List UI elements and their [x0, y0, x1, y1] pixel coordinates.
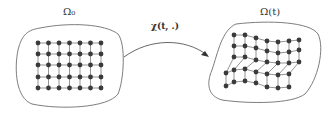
- grid-node: [57, 86, 62, 91]
- grid-node: [99, 75, 104, 80]
- grid-node: [88, 86, 93, 91]
- grid-node: [57, 52, 62, 57]
- grid-node: [46, 63, 51, 68]
- grid-node: [99, 63, 104, 68]
- grid-node: [67, 75, 72, 80]
- mapping-label: χ(t, .): [151, 21, 179, 31]
- grid-node: [276, 73, 281, 78]
- right-grid: [224, 33, 302, 91]
- grid-node: [78, 52, 83, 57]
- grid-node: [254, 70, 259, 75]
- grid-node: [287, 61, 292, 66]
- grid-node: [99, 86, 104, 91]
- right-domain-label: Ω(t): [260, 6, 280, 17]
- grid-node: [224, 84, 229, 89]
- grid-node: [67, 63, 72, 68]
- grid-node: [67, 52, 72, 57]
- grid-node: [67, 41, 72, 46]
- grid-node: [287, 72, 292, 77]
- mapping-arrow: [124, 42, 207, 57]
- grid-node: [243, 33, 248, 38]
- grid-node: [265, 72, 270, 77]
- grid-node: [297, 60, 302, 65]
- left-domain-label: Ω₀: [63, 6, 75, 17]
- grid-node: [36, 86, 41, 91]
- grid-node: [78, 86, 83, 91]
- grid-node: [46, 41, 51, 46]
- grid-node: [46, 52, 51, 57]
- grid-node: [243, 44, 248, 49]
- grid-node: [243, 79, 248, 84]
- grid-node: [88, 52, 93, 57]
- grid-node: [287, 85, 292, 90]
- grid-node: [265, 60, 270, 65]
- grid-node: [276, 51, 281, 56]
- grid-node: [99, 41, 104, 46]
- grid-node: [287, 50, 292, 55]
- grid-node: [265, 49, 270, 54]
- grid-node: [57, 63, 62, 68]
- grid-node: [243, 55, 248, 60]
- grid-node: [243, 67, 248, 72]
- grid-node: [78, 75, 83, 80]
- grid-node: [297, 48, 302, 53]
- grid-node: [276, 86, 281, 91]
- grid-node: [67, 86, 72, 91]
- grid-node: [57, 75, 62, 80]
- grid-node: [276, 61, 281, 66]
- grid-node: [57, 41, 62, 46]
- grid-node: [88, 41, 93, 46]
- grid-node: [265, 39, 270, 44]
- grid-node: [99, 52, 104, 57]
- grid-node: [232, 68, 237, 73]
- grid-node: [36, 75, 41, 80]
- grid-node: [287, 39, 292, 44]
- grid-node: [276, 40, 281, 45]
- left-grid: [36, 41, 104, 91]
- grid-node: [232, 44, 237, 49]
- grid-node: [232, 80, 237, 85]
- grid-node: [254, 46, 259, 51]
- grid-node: [254, 58, 259, 63]
- grid-node: [88, 75, 93, 80]
- grid-node: [232, 33, 237, 38]
- grid-node: [224, 71, 229, 76]
- grid-node: [254, 81, 259, 86]
- grid-node: [36, 52, 41, 57]
- grid-node: [297, 38, 302, 43]
- grid-node: [46, 86, 51, 91]
- diagram-canvas: [0, 0, 335, 114]
- grid-node: [36, 63, 41, 68]
- grid-node: [254, 36, 259, 41]
- grid-node: [36, 41, 41, 46]
- grid-node: [78, 63, 83, 68]
- grid-node: [265, 85, 270, 90]
- grid-node: [78, 41, 83, 46]
- grid-node: [88, 63, 93, 68]
- grid-node: [232, 55, 237, 60]
- grid-node: [46, 75, 51, 80]
